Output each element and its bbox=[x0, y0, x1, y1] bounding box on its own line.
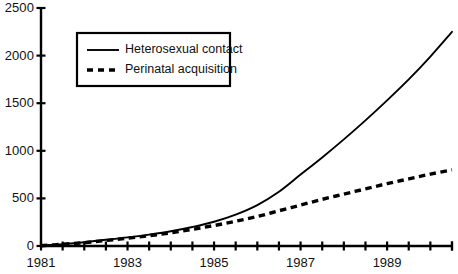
x-axis-tick-label: 1981 bbox=[18, 255, 64, 270]
y-axis-tick-label: 1000 bbox=[5, 143, 34, 158]
y-axis-tick-label: 2000 bbox=[5, 48, 34, 63]
chart-container: 05001000150020002500 1981198319851987198… bbox=[0, 0, 458, 274]
y-axis-tick-label: 2500 bbox=[5, 0, 34, 15]
legend-item-heterosexual-contact: Heterosexual contact bbox=[125, 42, 242, 56]
x-axis-tick-label: 1989 bbox=[364, 255, 410, 270]
x-axis-tick-label: 1985 bbox=[191, 255, 237, 270]
x-axis-tick-label: 1983 bbox=[105, 255, 151, 270]
chart-legend-box bbox=[77, 33, 230, 86]
series-line-perinatal-acquisition bbox=[41, 170, 452, 246]
legend-border bbox=[77, 33, 230, 86]
x-axis-tick-label: 1987 bbox=[278, 255, 324, 270]
y-axis-tick-label: 0 bbox=[27, 238, 34, 253]
legend-item-perinatal-acquisition: Perinatal acquisition bbox=[125, 62, 237, 76]
y-axis-tick-label: 1500 bbox=[5, 95, 34, 110]
y-axis-tick-label: 500 bbox=[12, 190, 34, 205]
